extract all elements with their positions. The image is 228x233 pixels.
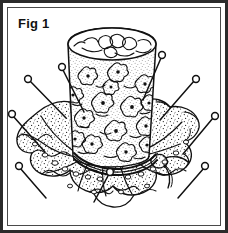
pincushion-body [65,28,159,167]
figure-panel: Fig 1 [0,0,228,233]
figure-caption: Fig 1 [18,17,49,31]
pincushion-illustration [8,8,220,225]
